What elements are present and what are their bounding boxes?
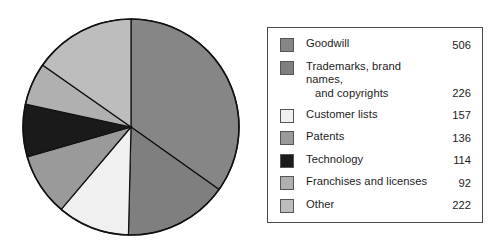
legend-swatch-icon: [280, 109, 294, 123]
legend-item-label: Trademarks, brand names,and copyrights: [294, 60, 441, 101]
legend-item-value: 226: [441, 87, 471, 101]
pie-chart-area: [0, 0, 260, 246]
legend-item-label-line2: and copyrights: [306, 87, 441, 101]
legend-item[interactable]: Customer lists157: [280, 108, 471, 123]
legend-swatch-icon: [280, 38, 294, 52]
legend-item-value: 157: [441, 109, 471, 123]
legend-item[interactable]: Trademarks, brand names,and copyrights22…: [280, 60, 471, 101]
legend-item-label: Customer lists: [294, 108, 441, 122]
legend-item-value: 136: [441, 132, 471, 146]
legend-swatch-icon: [280, 154, 294, 168]
pie-slices-group: [23, 19, 239, 235]
legend-swatch-icon: [280, 199, 294, 213]
legend-item-label: Technology: [294, 153, 441, 167]
legend-swatch-icon: [280, 176, 294, 190]
pie-chart-svg: [0, 0, 260, 246]
legend-item-value: 92: [441, 177, 471, 191]
legend-item-value: 506: [441, 39, 471, 53]
legend-item[interactable]: Goodwill506: [280, 37, 471, 52]
legend-item-label: Franchises and licenses: [294, 175, 441, 189]
legend-item-value: 114: [441, 154, 471, 168]
legend-item-label: Patents: [294, 130, 441, 144]
legend-item[interactable]: Patents136: [280, 130, 471, 145]
legend-panel: Goodwill506Trademarks, brand names,and c…: [267, 27, 483, 223]
legend-swatch-icon: [280, 61, 294, 75]
legend-item-label: Other: [294, 198, 441, 212]
legend-item[interactable]: Technology114: [280, 153, 471, 168]
legend-item-label: Goodwill: [294, 37, 441, 51]
legend-item[interactable]: Other222: [280, 198, 471, 213]
legend-list: Goodwill506Trademarks, brand names,and c…: [268, 28, 482, 222]
legend-swatch-icon: [280, 131, 294, 145]
legend-item-value: 222: [441, 199, 471, 213]
legend-item[interactable]: Franchises and licenses92: [280, 175, 471, 190]
